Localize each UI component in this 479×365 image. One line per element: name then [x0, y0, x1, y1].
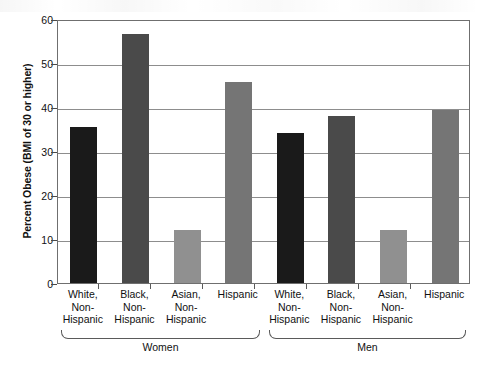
group-label-women: Women [57, 341, 264, 353]
bar-men-2 [380, 230, 407, 283]
x-category-label-4: White,Non-Hispanic [264, 288, 316, 326]
x-category-label-6: Asian,Non-Hispanic [367, 288, 419, 326]
group-bracket-women [61, 330, 260, 339]
plot-area [57, 20, 470, 284]
bar-men-0 [277, 133, 304, 283]
gridline-50 [58, 65, 469, 66]
bar-women-3 [225, 82, 252, 283]
gridline-10 [58, 241, 469, 242]
x-category-label-0: White,Non-Hispanic [57, 288, 109, 326]
x-category-label-1: Black,Non-Hispanic [109, 288, 161, 326]
x-category-label-3: Hispanic [212, 288, 264, 301]
group-label-men: Men [265, 341, 470, 353]
bar-men-1 [328, 116, 355, 283]
gridline-30 [58, 153, 469, 154]
x-category-label-2: Asian,Non-Hispanic [160, 288, 212, 326]
y-tick-label-20: 20 [29, 191, 53, 201]
y-tick-label-50: 50 [29, 59, 53, 69]
bar-women-1 [122, 34, 149, 283]
y-tick-label-60: 60 [29, 15, 53, 25]
y-tick-label-10: 10 [29, 235, 53, 245]
bar-women-2 [174, 230, 201, 283]
y-tick-label-0: 0 [29, 279, 53, 289]
y-tick-mark-0 [51, 284, 57, 285]
x-axis-category-labels: White,Non-HispanicBlack,Non-HispanicAsia… [57, 288, 470, 330]
gridline-20 [58, 197, 469, 198]
group-bracket-men [269, 330, 466, 339]
obesity-bar-chart: Percent Obese (BMI of 30 or higher) 0 10… [0, 0, 479, 365]
bar-men-3 [432, 110, 459, 283]
y-tick-label-30: 30 [29, 147, 53, 157]
x-category-label-7: Hispanic [418, 288, 470, 301]
y-tick-label-40: 40 [29, 103, 53, 113]
x-category-label-5: Black,Non-Hispanic [315, 288, 367, 326]
gridline-40 [58, 109, 469, 110]
bar-women-0 [70, 127, 97, 283]
scan-artifact [0, 0, 479, 12]
